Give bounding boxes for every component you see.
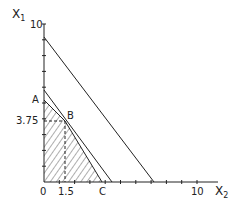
x2-axis-title: X2 [215, 185, 228, 200]
feasible-region [40, 95, 110, 185]
x1-title-text: X [12, 7, 20, 21]
x1-value-3-75: 3.75 [16, 116, 38, 126]
origin-label: 0 [40, 187, 46, 197]
x1-title-subscript: 1 [20, 14, 25, 23]
x1-axis-title: X1 [12, 8, 25, 23]
x1-tick-10: 10 [30, 20, 43, 30]
x2-title-subscript: 2 [223, 191, 228, 200]
x2-value-1-5: 1.5 [58, 187, 74, 197]
point-b-label: B [67, 111, 74, 121]
point-a-label: A [32, 95, 39, 105]
point-c-label: C [99, 187, 106, 197]
x2-title-text: X [215, 184, 223, 198]
x2-tick-10: 10 [191, 187, 204, 197]
